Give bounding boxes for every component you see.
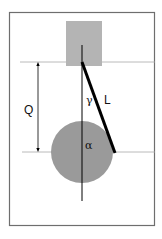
label-q: Q <box>24 103 33 117</box>
arrow-down-icon <box>36 148 39 152</box>
piston-block <box>66 21 102 66</box>
arrow-up-icon <box>36 62 39 66</box>
label-gamma: γ <box>86 94 93 107</box>
crank-mechanism-diagram: Q L γ α <box>0 0 162 239</box>
label-l: L <box>104 93 111 107</box>
label-alpha: α <box>85 139 93 152</box>
